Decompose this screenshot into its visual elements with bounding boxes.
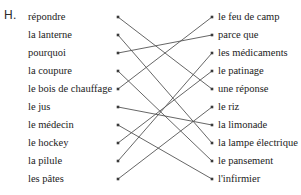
list-item[interactable]: le hockey	[28, 134, 124, 152]
right-connector-dot[interactable]	[211, 16, 214, 19]
right-connector-dot[interactable]	[211, 70, 214, 73]
list-item[interactable]: le pansement	[218, 152, 301, 170]
right-connector-dot[interactable]	[211, 124, 214, 127]
match-line[interactable]	[118, 17, 212, 89]
right-connector-dot[interactable]	[211, 34, 214, 37]
exercise-letter-label: H.	[4, 8, 17, 22]
right-connector-dot[interactable]	[211, 88, 214, 91]
list-item[interactable]: la limonade	[218, 116, 301, 134]
list-item[interactable]: le patinage	[218, 62, 301, 80]
cropped-header-text	[40, 0, 160, 6]
right-connector-dot[interactable]	[211, 160, 214, 163]
list-item[interactable]: la lanterne	[28, 26, 124, 44]
list-item[interactable]: les pâtes	[28, 170, 124, 188]
list-item[interactable]: le bois de chauffage	[28, 80, 124, 98]
right-connector-dot[interactable]	[211, 178, 214, 181]
list-item[interactable]: la coupure	[28, 62, 124, 80]
list-item[interactable]: le jus	[28, 98, 124, 116]
match-line[interactable]	[118, 125, 212, 179]
list-item[interactable]: les médicaments	[218, 44, 301, 62]
list-item[interactable]: la lampe électrique	[218, 134, 301, 152]
match-line[interactable]	[118, 107, 212, 125]
list-item[interactable]: parce que	[218, 26, 301, 44]
list-item[interactable]: le feu de camp	[218, 8, 301, 26]
match-line[interactable]	[118, 35, 212, 143]
list-item[interactable]: la pilule	[28, 152, 124, 170]
right-terms-column: le feu de camp parce que les médicaments…	[218, 8, 301, 188]
list-item[interactable]: l'infirmier	[218, 170, 301, 188]
list-item[interactable]: répondre	[28, 8, 124, 26]
match-line[interactable]	[118, 107, 212, 179]
list-item[interactable]: une réponse	[218, 80, 301, 98]
list-item[interactable]: le riz	[218, 98, 301, 116]
match-line[interactable]	[118, 35, 212, 53]
match-line[interactable]	[118, 71, 212, 161]
list-item[interactable]: le médecin	[28, 116, 124, 134]
right-connector-dot[interactable]	[211, 52, 214, 55]
right-connector-dot[interactable]	[211, 106, 214, 109]
left-terms-column: répondre la lanterne pourquoi la coupure…	[28, 8, 124, 188]
matching-exercise-worksheet: H. répondre la lanterne pourquoi la coup…	[0, 0, 301, 195]
match-line[interactable]	[118, 71, 212, 143]
list-item[interactable]: pourquoi	[28, 44, 124, 62]
match-line[interactable]	[118, 53, 212, 161]
match-line[interactable]	[118, 17, 212, 89]
right-connector-dot[interactable]	[211, 142, 214, 145]
